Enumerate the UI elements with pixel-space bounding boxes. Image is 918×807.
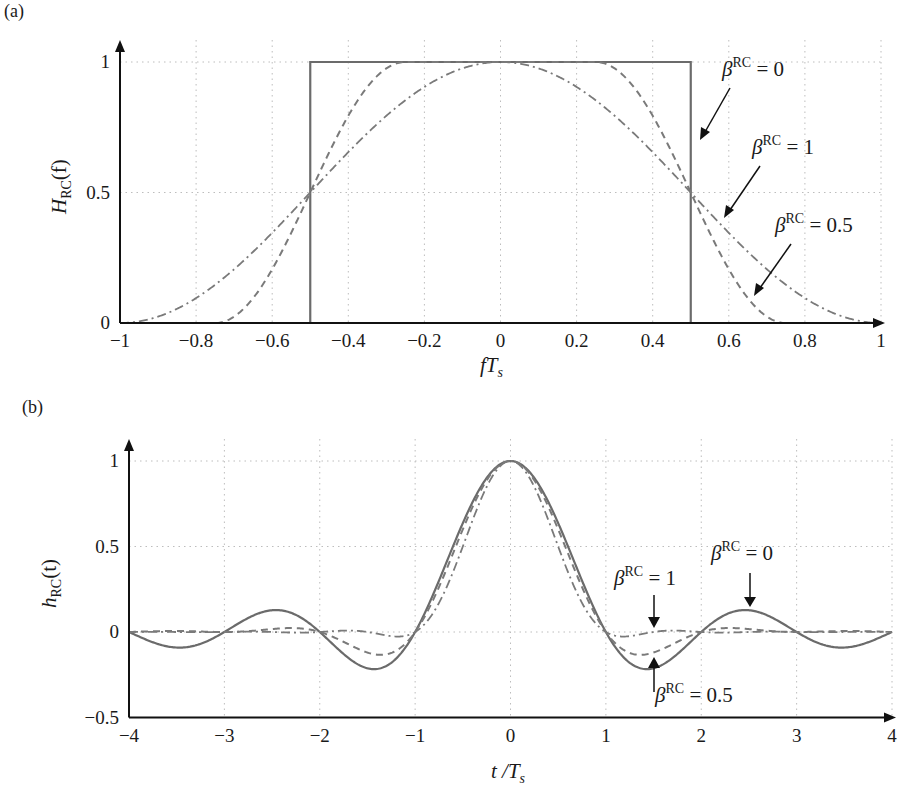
x-tick-label: 4	[887, 725, 897, 746]
x-tick-label: 1	[876, 330, 886, 351]
svg-text:βRC = 0: βRC = 0	[721, 55, 784, 81]
y-axis-label-a: HRC(f)	[47, 159, 74, 215]
x-tick-label: 3	[792, 725, 802, 746]
x-tick-label: −0.8	[179, 330, 213, 351]
chart-b: −4−3−2−101234−0.500.51	[85, 439, 898, 746]
x-tick-label: 0	[506, 725, 516, 746]
svg-text:βRC = 1: βRC = 1	[613, 564, 676, 590]
x-tick-label: 0.2	[565, 330, 589, 351]
x-axis-label-a: fTs	[480, 353, 504, 380]
y-tick-label: −0.5	[85, 707, 119, 728]
x-tick-label: −1	[405, 725, 425, 746]
annotation-b-beta0: βRC = 0	[710, 539, 773, 607]
x-tick-label: −2	[310, 725, 330, 746]
y-axis-arrow-icon	[124, 439, 134, 451]
x-axis-label-b: t /Ts	[491, 759, 526, 786]
svg-text:βRC = 1: βRC = 1	[751, 133, 814, 159]
x-tick-label: −0.2	[407, 330, 441, 351]
y-tick-label: 1	[110, 450, 120, 471]
x-tick-label: −3	[214, 725, 234, 746]
svg-text:βRC = 0.5: βRC = 0.5	[774, 211, 853, 237]
chart-a: −1−0.8−0.6−0.4−0.200.20.40.60.8100.51	[86, 40, 886, 351]
x-tick-label: −0.4	[331, 330, 366, 351]
y-axis-label-b: hRC(t)	[37, 559, 64, 608]
annotation-a-beta0: βRC = 0	[700, 55, 784, 140]
y-tick-label: 0	[110, 621, 120, 642]
x-tick-label: −0.6	[255, 330, 289, 351]
raised-cosine-figure: −1−0.8−0.6−0.4−0.200.20.40.60.8100.51 −4…	[0, 0, 918, 807]
y-tick-label: 0.5	[86, 182, 110, 203]
x-tick-label: 1	[601, 725, 611, 746]
panel-label-b: (b)	[22, 397, 43, 418]
x-axis-arrow-icon	[873, 318, 885, 328]
y-tick-label: 1	[101, 51, 111, 72]
x-axis-arrow-icon	[884, 713, 896, 723]
y-tick-label: 0.5	[95, 536, 119, 557]
svg-text:βRC = 0.5: βRC = 0.5	[654, 681, 733, 707]
panel-label-a: (a)	[4, 1, 24, 22]
x-tick-label: 0.8	[793, 330, 817, 351]
y-tick-label: 0	[101, 312, 111, 333]
series-line	[129, 461, 892, 655]
x-tick-label: 0	[496, 330, 506, 351]
x-tick-label: −1	[110, 330, 130, 351]
y-axis-arrow-icon	[115, 40, 125, 52]
x-tick-label: 0.6	[717, 330, 741, 351]
x-tick-label: 2	[697, 725, 707, 746]
annotation-a-beta05: βRC = 0.5	[754, 211, 853, 296]
x-tick-label: −4	[119, 725, 140, 746]
annotation-b-beta1: βRC = 1	[613, 564, 676, 628]
annotation-a-beta1: βRC = 1	[724, 133, 814, 218]
x-tick-label: 0.4	[641, 330, 665, 351]
svg-text:βRC = 0: βRC = 0	[710, 539, 773, 565]
